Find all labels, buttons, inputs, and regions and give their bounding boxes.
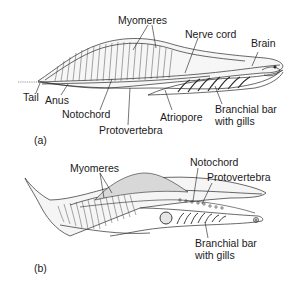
panel-b-head: [110, 208, 263, 236]
label-b-protovertebra: Protovertebra: [207, 172, 271, 183]
panel-b-tag: (b): [34, 263, 47, 274]
label-a-with-gills: with gills: [215, 116, 255, 127]
label-b-branchial-bar: Branchial bar: [195, 238, 257, 249]
label-a-tail: Tail: [23, 92, 39, 103]
label-a-notochord: Notochord: [62, 109, 110, 120]
label-b-with-gills: with gills: [195, 250, 235, 261]
label-a-branchial-bar: Branchial bar: [215, 104, 277, 115]
label-a-brain: Brain: [251, 38, 276, 49]
label-a-myomeres: Myomeres: [118, 15, 167, 26]
label-a-protovertebra: Protovertebra: [99, 125, 163, 136]
label-a-nerve-cord: Nerve cord: [185, 29, 236, 40]
label-b-myomeres: Myomeres: [70, 163, 119, 174]
label-b-notochord: Notochord: [190, 157, 238, 168]
diagram-figure: Myomeres Nerve cord Brain Tail Anus Noto…: [0, 0, 290, 282]
panel-b-gill-bars: [160, 212, 226, 224]
label-a-anus: Anus: [45, 95, 69, 106]
label-a-atriopore: Atriopore: [160, 112, 203, 123]
panel-a-tag: (a): [34, 135, 47, 146]
